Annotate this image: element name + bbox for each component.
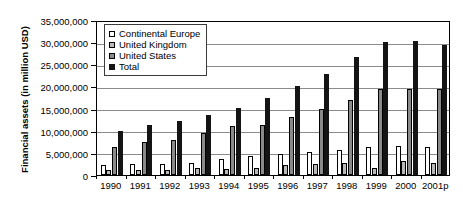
bar (295, 86, 300, 175)
bar (354, 57, 359, 175)
bar (401, 161, 406, 175)
bar (383, 42, 388, 175)
bar (396, 146, 401, 175)
x-axis-tick-mark (155, 176, 156, 179)
x-axis-tick-label: 1990 (100, 180, 121, 191)
x-axis-tick-label: 1994 (218, 180, 239, 191)
chart-legend: Continental EuropeUnited KingdomUnited S… (104, 24, 207, 76)
bar (265, 98, 270, 175)
bar-cluster (215, 22, 245, 175)
bar (112, 147, 117, 175)
x-axis-tick-mark (391, 176, 392, 179)
legend-item-label: United States (119, 50, 176, 61)
y-axis-tick-label: 10,000,000 (40, 126, 88, 137)
legend-swatch-continental-europe-icon (109, 31, 115, 37)
legend-item[interactable]: Total (109, 61, 200, 72)
bar (189, 163, 194, 175)
bar (413, 41, 418, 175)
legend-swatch-total-icon (109, 64, 115, 70)
bar (165, 170, 170, 175)
bar (372, 168, 377, 175)
bar (118, 131, 123, 175)
bar (219, 159, 224, 175)
bar (319, 109, 324, 175)
x-axis-tick-label: 2001p (422, 180, 448, 191)
bar-cluster (304, 22, 334, 175)
x-axis-tick-label: 1999 (366, 180, 387, 191)
bar (147, 125, 152, 175)
bar (201, 133, 206, 175)
x-axis-tick-label: 1993 (189, 180, 210, 191)
y-axis-tick-group: 05,000,00010,000,00015,000,00020,000,000… (0, 0, 96, 219)
x-axis-tick-label: 1996 (277, 180, 298, 191)
bar (195, 168, 200, 175)
bar (177, 121, 182, 175)
bar-cluster (333, 22, 363, 175)
bar (378, 89, 383, 175)
bar (407, 89, 412, 175)
bar (431, 163, 436, 175)
y-axis-tick-label: 35,000,000 (40, 16, 88, 27)
x-axis-tick-label: 1998 (336, 180, 357, 191)
legend-item-label: Total (119, 61, 139, 72)
bar (224, 169, 229, 175)
x-axis-tick-mark (96, 176, 97, 179)
x-axis-tick-label: 1995 (248, 180, 269, 191)
bar (248, 156, 253, 175)
x-axis-tick-mark (126, 176, 127, 179)
y-axis-tick-label: 0 (83, 171, 88, 182)
bar (260, 125, 265, 175)
bar (313, 164, 318, 175)
bar (171, 140, 176, 175)
y-axis-tick-label: 30,000,000 (40, 38, 88, 49)
bar (337, 150, 342, 175)
legend-item-label: Continental Europe (119, 28, 200, 39)
x-axis-tick-mark (214, 176, 215, 179)
bar-cluster (363, 22, 393, 175)
bar (206, 115, 211, 175)
x-axis-tick-mark (303, 176, 304, 179)
legend-swatch-united-kingdom-icon (109, 42, 115, 48)
bar (289, 117, 294, 175)
x-axis-tick-mark (244, 176, 245, 179)
legend-swatch-united-states-icon (109, 53, 115, 59)
y-axis-tick-label: 15,000,000 (40, 104, 88, 115)
bar (106, 170, 111, 175)
bar-cluster (422, 22, 452, 175)
bar (425, 147, 430, 175)
x-axis-tick-mark (332, 176, 333, 179)
bar (324, 74, 329, 175)
legend-item[interactable]: United States (109, 50, 200, 61)
x-axis-tick-mark (421, 176, 422, 179)
bar (442, 45, 447, 175)
legend-item[interactable]: United Kingdom (109, 39, 200, 50)
bar (283, 165, 288, 175)
bar (437, 89, 442, 175)
bar (254, 168, 259, 175)
bar (130, 164, 135, 175)
bar-cluster (392, 22, 422, 175)
bar (160, 164, 165, 175)
x-axis-tick-group: 1990199119921993199419951996199719981999… (96, 178, 450, 198)
bar (101, 165, 106, 175)
legend-item-label: United Kingdom (119, 39, 187, 50)
bar (278, 154, 283, 175)
bar (236, 108, 241, 175)
bar (136, 170, 141, 175)
bar-cluster (274, 22, 304, 175)
x-axis-tick-label: 2000 (395, 180, 416, 191)
x-axis-tick-mark (273, 176, 274, 179)
bar (307, 152, 312, 175)
x-axis-tick-label: 1992 (159, 180, 180, 191)
x-axis-tick-mark (362, 176, 363, 179)
y-axis-tick-label: 25,000,000 (40, 60, 88, 71)
y-axis-tick-label: 20,000,000 (40, 82, 88, 93)
legend-item[interactable]: Continental Europe (109, 28, 200, 39)
x-axis-tick-label: 1991 (130, 180, 151, 191)
bar (348, 100, 353, 175)
y-axis-tick-label: 5,000,000 (46, 148, 88, 159)
bar-cluster (245, 22, 275, 175)
financial-assets-bar-chart: Financial assets (in million USD) 05,000… (0, 0, 463, 219)
bar (230, 126, 235, 175)
x-axis-tick-label: 1997 (307, 180, 328, 191)
